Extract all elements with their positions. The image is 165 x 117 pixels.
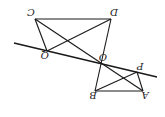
segment-DQ [47,19,111,51]
segment-CQ [35,19,47,51]
point-label-D: D [110,7,119,18]
point-label-P: P [136,61,144,72]
geometry-diagram: ABCDOPQ [0,0,165,117]
transversal-line [14,43,157,77]
point-label-A: A [141,90,149,101]
point-label-B: B [89,90,97,101]
segment-BP [95,72,137,91]
point-label-C: C [27,7,35,18]
point-label-O: O [99,52,107,63]
segments [14,19,157,91]
point-label-Q: Q [41,50,49,61]
